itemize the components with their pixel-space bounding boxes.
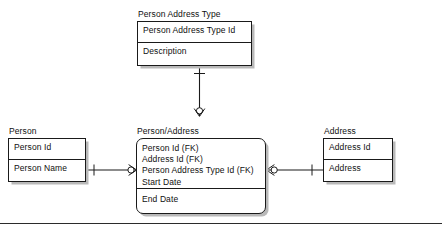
attribute: End Date (137, 194, 265, 205)
entity-box[interactable]: Person Id (FK) Address Id (FK) Person Ad… (136, 138, 266, 214)
entity-title: Person Address Type (138, 9, 221, 19)
attribute-group-nonkeys: Person Name (9, 159, 85, 182)
attribute: Address Id (324, 142, 392, 153)
attribute: Person Address Type Id (FK) (137, 165, 265, 176)
attribute: Person Address Type Id (138, 25, 251, 36)
entity-title: Address (324, 126, 356, 136)
relationship-person-personaddress (87, 165, 137, 176)
attribute: Address (324, 163, 392, 174)
attribute-group-nonkeys: Address (324, 159, 392, 182)
attribute-group-nonkeys: Description (138, 42, 251, 66)
attribute: Person Id (FK) (137, 143, 265, 154)
entity-box[interactable]: Address Id Address (323, 138, 393, 182)
relationship-address-personaddress (266, 165, 324, 176)
attribute: Address Id (FK) (137, 154, 265, 165)
entity-box[interactable]: Person Address Type Id Description (137, 21, 252, 66)
attribute-group-keys: Person Id (9, 139, 85, 159)
attribute: Person Name (9, 163, 85, 174)
entity-title: Person (9, 126, 37, 136)
attribute-group-keys: Address Id (324, 139, 392, 159)
relationship-persontype-personaddress (194, 67, 205, 117)
attribute: Description (138, 46, 251, 57)
attribute-group-keys: Person Address Type Id (138, 22, 251, 42)
attribute: Start Date (137, 177, 265, 188)
er-diagram-canvas: Person Address Type Person Address Type … (0, 0, 442, 233)
page-footer-rule (0, 223, 442, 224)
attribute-group-keys: Person Id (FK) Address Id (FK) Person Ad… (137, 139, 265, 188)
entity-title: Person/Address (137, 126, 199, 136)
attribute: Person Id (9, 142, 85, 153)
entity-box[interactable]: Person Id Person Name (8, 138, 86, 182)
attribute-group-nonkeys: End Date (137, 188, 265, 214)
